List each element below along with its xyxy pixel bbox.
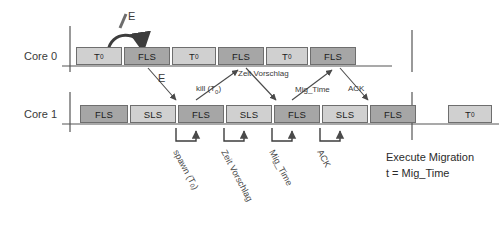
annotation-mig-time: Mig_Time — [295, 85, 330, 94]
core1-block-t0-migrated[interactable]: T0 — [448, 105, 492, 123]
block-label: FLS — [324, 51, 342, 62]
block-label: SLS — [144, 109, 163, 120]
block-label: FLS — [288, 109, 306, 120]
block-sub: 0 — [288, 53, 292, 60]
annotation-event-top: E — [128, 10, 135, 22]
core1-label: Core 1 — [24, 108, 57, 120]
core0-block-t0-3[interactable]: T0 — [266, 47, 308, 65]
annotation-zeit-vorschlag: Zeit Vorschlag — [238, 69, 289, 78]
core0-block-fls-1[interactable]: FLS — [124, 47, 170, 65]
annotation-ack: ACK — [348, 84, 364, 93]
core0-block-t0-2[interactable]: T0 — [172, 47, 216, 65]
core0-block-t0-1[interactable]: T0 — [76, 47, 122, 65]
core1-block-sls-3[interactable]: SLS — [322, 105, 368, 123]
core1-block-fls-2[interactable]: FLS — [178, 105, 224, 123]
block-label: FLS — [384, 109, 402, 120]
block-label: FLS — [232, 51, 250, 62]
core0-label: Core 0 — [24, 50, 57, 62]
block-label: SLS — [336, 109, 355, 120]
request-brackets — [176, 128, 340, 141]
footer-mig-time-value: t = Mig_Time — [386, 166, 449, 180]
block-label: SLS — [240, 109, 259, 120]
block-label: FLS — [95, 109, 113, 120]
kill-text: kill (T — [196, 84, 215, 93]
annotation-event-mid: E — [158, 72, 165, 84]
core1-block-sls-2[interactable]: SLS — [226, 105, 272, 123]
kill-close: ) — [218, 84, 221, 93]
core1-block-fls-1[interactable]: FLS — [80, 105, 128, 123]
core0-block-fls-3[interactable]: FLS — [310, 47, 356, 65]
core1-block-fls-4[interactable]: FLS — [370, 105, 416, 123]
block-label: FLS — [192, 109, 210, 120]
core1-block-sls-1[interactable]: SLS — [130, 105, 176, 123]
block-sub: 0 — [471, 111, 475, 118]
block-sub: 0 — [100, 53, 104, 60]
block-label: FLS — [138, 51, 156, 62]
block-sub: 0 — [195, 53, 199, 60]
diagram-canvas: Core 0 Core 1 T0 FLS T0 FLS T0 FLS FLS S… — [0, 0, 499, 232]
annotation-kill: kill (T0) — [196, 84, 221, 95]
footer-execute-migration: Execute Migration — [386, 150, 474, 164]
core1-block-fls-3[interactable]: FLS — [274, 105, 320, 123]
core0-block-fls-2[interactable]: FLS — [218, 47, 264, 65]
